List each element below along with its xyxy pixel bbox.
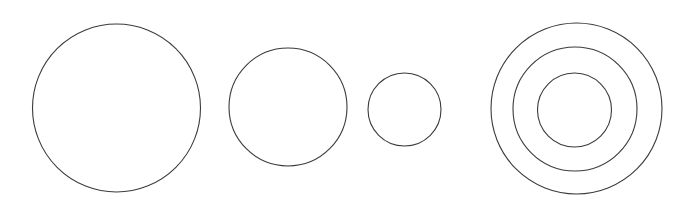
diagram-canvas (0, 0, 674, 216)
circles-diagram (0, 0, 674, 216)
canvas-background (0, 0, 674, 216)
